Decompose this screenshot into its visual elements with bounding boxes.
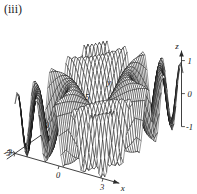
wireframe-mesh [15,41,183,178]
svg-text:3: 3 [99,182,104,192]
svg-text:5: 5 [85,92,89,102]
panel-label: (iii) [4,3,22,15]
svg-text:y: y [106,77,111,87]
svg-text:1: 1 [187,56,191,66]
svg-text:-1: -1 [186,122,193,132]
surface-plot-canvas: x-303y-505z-101 [0,0,197,194]
svg-text:z: z [174,41,179,51]
svg-text:x: x [120,183,125,193]
svg-text:-5: -5 [3,148,10,158]
svg-text:0: 0 [56,170,61,180]
svg-text:0: 0 [187,89,192,99]
surface-plot-figure: (iii) x-303y-505z-101 [0,0,197,194]
